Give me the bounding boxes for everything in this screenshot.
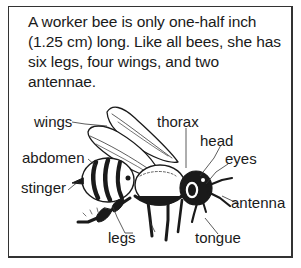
label-legs: legs [108, 229, 136, 246]
bee-diagram: wings thorax head abdomen eyes stinger a… [0, 0, 301, 268]
bee-illustration-icon [72, 107, 232, 240]
label-wings: wings [33, 113, 72, 130]
label-stinger: stinger [21, 179, 66, 196]
label-tongue: tongue [195, 229, 241, 246]
label-head: head [200, 132, 233, 149]
label-eyes: eyes [225, 150, 257, 167]
label-thorax: thorax [157, 113, 199, 130]
label-antenna: antenna [231, 194, 286, 211]
label-abdomen: abdomen [22, 149, 85, 166]
